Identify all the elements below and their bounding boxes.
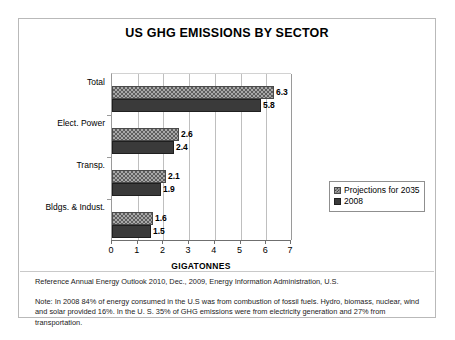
legend-swatch-projections-icon [334, 187, 341, 194]
footnote-note: Note: In 2008 84% of energy consumed in … [35, 297, 421, 329]
chart-figure: Total Elect. Power Transp. Bldgs. & Indu… [19, 55, 437, 261]
footnotes-block: Reference Annual Energy Outlook 2010, De… [35, 277, 421, 328]
data-label-projections-elect-power: 2.6 [181, 129, 193, 139]
legend-item-2008: 2008 [334, 196, 420, 207]
x-axis-tick-label-7: 7 [280, 245, 300, 255]
bar-2008-transp [112, 183, 161, 196]
y-axis-category-labels: Total Elect. Power Transp. Bldgs. & Indu… [19, 55, 111, 261]
footnote-divider [20, 271, 434, 272]
x-axis-title: GIGATONNES [111, 261, 291, 271]
footnote-reference: Reference Annual Energy Outlook 2010, De… [35, 277, 421, 288]
data-label-projections-bldgs-indust: 1.6 [155, 213, 167, 223]
slide-frame: US GHG EMISSIONS BY SECTOR Total Elect. … [18, 18, 436, 318]
chart-legend: Projections for 2035 2008 [329, 181, 425, 212]
x-axis-tick-3 [188, 240, 189, 244]
data-label-2008-elect-power: 2.4 [176, 142, 188, 152]
bar-projections-transp [112, 170, 166, 183]
bar-2008-total [112, 99, 261, 112]
x-axis-tick-4 [214, 240, 215, 244]
x-axis-tick-5 [240, 240, 241, 244]
bar-2008-bldgs-indust [112, 225, 151, 238]
chart-title: US GHG EMISSIONS BY SECTOR [19, 26, 435, 40]
plot-area: 6.3 5.8 2.6 2.4 2.1 1.9 1.6 1.5 [111, 73, 291, 240]
slide-page: US GHG EMISSIONS BY SECTOR Total Elect. … [0, 0, 455, 340]
gridline-7 [291, 74, 292, 240]
x-axis-tick-label-5: 5 [230, 245, 250, 255]
data-label-2008-transp: 1.9 [163, 184, 175, 194]
data-label-projections-transp: 2.1 [168, 171, 180, 181]
x-axis-tick-0 [111, 240, 112, 244]
x-axis-tick-label-1: 1 [127, 245, 147, 255]
x-axis-tick-label-0: 0 [101, 245, 121, 255]
x-axis-tick-1 [137, 240, 138, 244]
y-axis-label-total: Total [23, 77, 111, 87]
bar-2008-elect-power [112, 141, 174, 154]
x-axis-line [111, 240, 291, 241]
bar-projections-bldgs-indust [112, 212, 153, 225]
x-axis-tick-2 [162, 240, 163, 244]
y-axis-label-elect-power: Elect. Power [23, 118, 111, 128]
data-label-2008-total: 5.8 [263, 100, 275, 110]
x-axis-tick-label-3: 3 [178, 245, 198, 255]
x-axis-tick-label-6: 6 [255, 245, 275, 255]
x-axis-tick-label-2: 2 [152, 245, 172, 255]
legend-swatch-2008-icon [334, 198, 341, 205]
x-axis-tick-6 [265, 240, 266, 244]
data-label-projections-total: 6.3 [276, 87, 288, 97]
bar-projections-elect-power [112, 128, 179, 141]
y-axis-label-bldgs-indust: Bldgs. & Indust. [23, 202, 111, 212]
legend-item-projections: Projections for 2035 [334, 185, 420, 196]
x-axis-tick-label-4: 4 [204, 245, 224, 255]
legend-label-2008: 2008 [344, 196, 363, 207]
data-label-2008-bldgs-indust: 1.5 [153, 226, 165, 236]
x-axis-tick-7 [290, 240, 291, 244]
bar-projections-total [112, 86, 274, 99]
y-axis-label-transp: Transp. [23, 160, 111, 170]
legend-label-projections: Projections for 2035 [344, 185, 420, 196]
